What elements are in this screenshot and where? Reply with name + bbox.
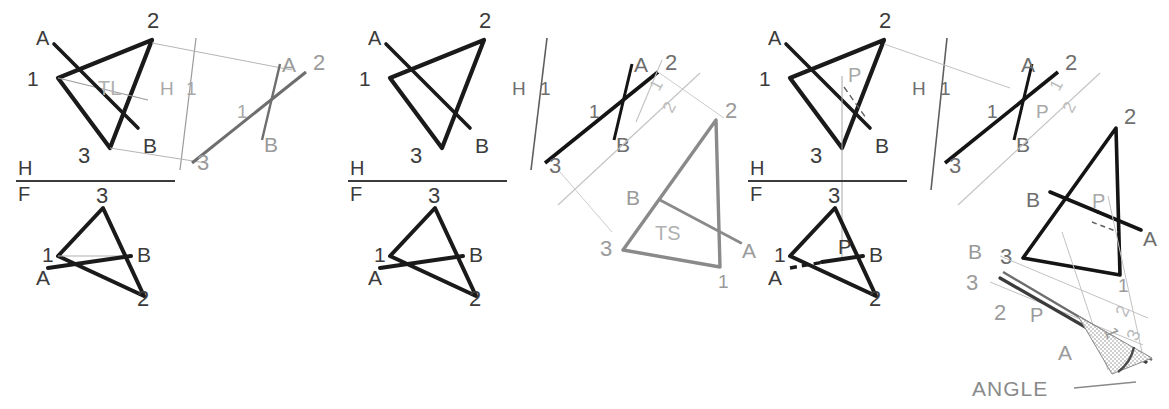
panel-3-front-label-P: P	[838, 236, 851, 258]
panel-3-ts-label-2: 2	[1124, 104, 1136, 129]
panel-1-fold-h1-H: H	[160, 78, 174, 99]
panel-3-top-label-P: P	[848, 64, 861, 86]
panel-3-fold-h1-H: H	[912, 78, 926, 99]
panel-2-ts-label-B: B	[626, 186, 640, 209]
panel-3-aux-label-P: P	[1036, 101, 1049, 122]
panel-2-ts-label-A: A	[742, 239, 756, 262]
panel-3-angle-caption: ANGLE	[972, 377, 1048, 400]
panel-3-front-label-2: 2	[869, 286, 881, 311]
panel-1-fold-hf-F: F	[18, 183, 30, 205]
panel-2-aux-label-A: A	[634, 53, 648, 76]
panel-2-front-view: 3 1 2 A B	[368, 183, 483, 311]
panel-3-angle-label-P: P	[1030, 304, 1043, 326]
panel-3-ts-label-1: 1	[1118, 275, 1129, 296]
panel-2-top-label-A: A	[368, 27, 382, 49]
panel-1-aux-view: 3 A 2 B 1	[192, 50, 325, 175]
panel-1-tl-caption: TL	[98, 77, 121, 99]
panel-1-top-label-1: 1	[27, 67, 39, 90]
panel-1-fold-h1-1: 1	[186, 78, 197, 99]
panel-3-top-label-3: 3	[810, 143, 822, 168]
panel-2-top-label-3: 3	[410, 143, 422, 168]
panel-2-front-label-A: A	[368, 266, 382, 289]
panel-3-ts-label-B: B	[1026, 188, 1040, 211]
panel-3-angle-label-2: 2	[994, 300, 1006, 325]
panel-2-front-label-B: B	[469, 243, 483, 266]
panel-3-front-label-3: 3	[828, 183, 840, 208]
panel-3-fold-h1-1: 1	[940, 78, 951, 99]
panel-3-front-label-B: B	[869, 243, 883, 266]
panel-3-angle-label-3: 3	[966, 270, 978, 295]
panel-3-fold-hf-F: F	[750, 183, 762, 205]
panel-1-fold-hf-H: H	[18, 157, 32, 179]
panel-3-aux-label-1: 1	[987, 101, 998, 122]
panel-3-aux-label-A: A	[1021, 53, 1035, 76]
panel-2-aux-label-3: 3	[549, 153, 561, 178]
panel-2-aux-label-2: 2	[665, 50, 677, 75]
descriptive-geometry-drawing: A 2 1 3 B TL H F 3 1 2 A B H 1	[0, 0, 1169, 409]
panel-2-fold-hf-H: H	[350, 157, 364, 179]
panel-1-top-label-3: 3	[78, 143, 90, 168]
panel-1-top-view: A 2 1 3 B TL	[27, 8, 159, 168]
panel-2-aux-view: 3 A 2 B 1	[545, 50, 677, 178]
panel-2-ts-caption: TS	[655, 222, 681, 244]
panel-3-ts-label-A: A	[1143, 227, 1157, 250]
panel-3-fold-12-1: 1	[1046, 77, 1067, 94]
panel-1-front-label-A: A	[36, 266, 50, 289]
panel-3-fold-23-3: 3	[1122, 326, 1144, 343]
panel-3-top-label-B: B	[875, 134, 889, 157]
panel-2-ts-label-1: 1	[718, 271, 729, 292]
panel-1-front-label-1: 1	[42, 243, 54, 266]
panel-2-front-label-2: 2	[469, 286, 481, 311]
panel-2-front-label-3: 3	[428, 183, 440, 208]
panel-1-front-label-B: B	[137, 243, 151, 266]
panel-2-ts-label-3: 3	[600, 236, 612, 261]
panel-2-ts-label-2: 2	[725, 98, 737, 123]
panel-2-top-label-2: 2	[479, 8, 491, 33]
panel-3-front-view: 3 1 2 A B P	[768, 183, 883, 311]
drawing-sheet: A 2 1 3 B TL H F 3 1 2 A B H 1	[0, 0, 1169, 409]
panel-1-aux-label-2: 2	[313, 50, 325, 75]
panel-3-aux-label-3: 3	[949, 153, 961, 178]
panel-3-angle-label-A: A	[1058, 341, 1072, 364]
panel-3-fold-hf-H: H	[750, 157, 764, 179]
panel-2-top-view: A 2 1 3 B	[359, 8, 491, 168]
panel-3-angle-label-B: B	[968, 240, 982, 263]
panel-1-aux-label-B: B	[264, 133, 278, 156]
panel-3-fold-12: 1 2	[958, 73, 1100, 205]
panel-2-fold-h1-1: 1	[540, 78, 551, 99]
panel-1-aux-label-A: A	[282, 53, 296, 76]
panel-3-aux-label-2: 2	[1065, 50, 1077, 75]
panel-3-front-label-A: A	[768, 266, 782, 289]
panel-1-front-view: 3 1 2 A B	[36, 183, 151, 311]
cut-off-header-strip	[0, 0, 1169, 8]
panel-1-top-label-A: A	[36, 27, 50, 49]
panel-2-ts-view: 2 3 1 B A TS	[600, 98, 756, 292]
panel-3-top-label-A: A	[768, 27, 782, 49]
panel-3-ts-label-P: P	[1092, 190, 1105, 212]
panel-1-aux-label-3: 3	[197, 150, 209, 175]
panel-1-aux-label-1: 1	[237, 101, 248, 122]
panel-3-angle-view: B 3 2 A 1 P 2 3 ANGLE	[966, 196, 1152, 400]
panel-3-top-label-1: 1	[759, 67, 771, 90]
panel-2-fold-hf-F: F	[350, 183, 362, 205]
panel-3-top-label-2: 2	[879, 8, 891, 33]
panel-2-fold-h1-H: H	[512, 78, 526, 99]
panel-3-top-view: A 2 1 3 B P	[759, 8, 891, 260]
panel-2-fold-h1: H 1	[512, 38, 551, 170]
panel-2-top-label-1: 1	[359, 67, 371, 90]
panel-2: A 2 1 3 B H F 3 1 2 A B H 1 3	[348, 8, 756, 311]
panel-1-front-label-2: 2	[137, 286, 149, 311]
panel-3-fold-23-2: 2	[1111, 302, 1133, 319]
panel-1: A 2 1 3 B TL H F 3 1 2 A B H 1	[16, 8, 325, 311]
panel-3-front-label-1: 1	[774, 243, 786, 266]
panel-2-aux-label-1: 1	[589, 101, 600, 122]
panel-2-front-label-1: 1	[374, 243, 386, 266]
panel-3: A 2 1 3 B P H F 3 1 2 A B P H 1	[748, 8, 1157, 400]
panel-3-aux-view: 3 A 2 B 1 P	[945, 50, 1077, 178]
panel-1-front-label-3: 3	[96, 183, 108, 208]
panel-1-top-label-2: 2	[147, 8, 159, 33]
panel-2-top-label-B: B	[475, 134, 489, 157]
